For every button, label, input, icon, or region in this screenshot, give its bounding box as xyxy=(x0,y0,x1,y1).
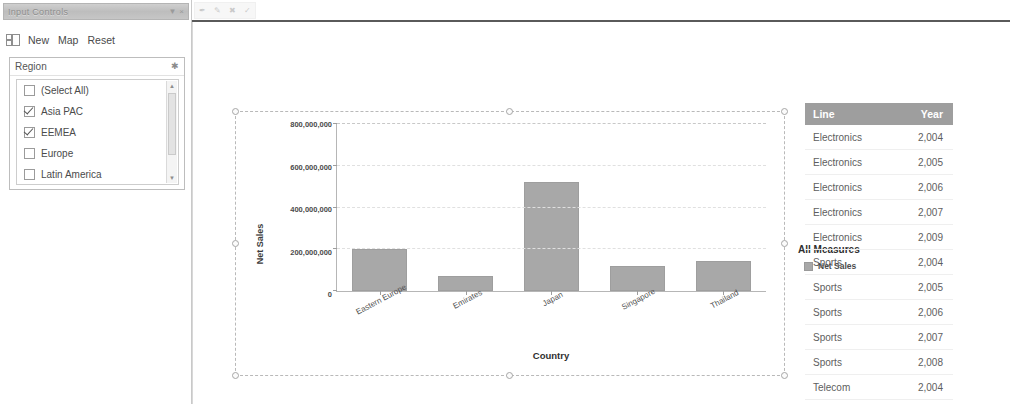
cell-line: Electronics xyxy=(805,200,879,225)
scroll-down-icon[interactable]: ▼ xyxy=(167,173,177,183)
cell-line: Sports xyxy=(805,325,879,350)
table-row[interactable]: Electronics2,004 xyxy=(805,125,953,150)
table-row[interactable]: Sports2,006 xyxy=(805,300,953,325)
panel-toolbar: New Map Reset xyxy=(6,30,188,50)
mini-toolbar[interactable]: ✒ ✎ ✖ ✓ xyxy=(194,2,256,19)
table-row[interactable]: Electronics2,006 xyxy=(805,175,953,200)
cell-year: 2,006 xyxy=(879,300,953,325)
column-header-year[interactable]: Year xyxy=(879,103,953,125)
cell-year: 2,007 xyxy=(879,325,953,350)
checkbox-checked-icon[interactable] xyxy=(24,106,35,117)
x-tick-label: Japan xyxy=(541,290,564,308)
cell-line: Sports xyxy=(805,300,879,325)
column-header-line[interactable]: Line xyxy=(805,103,879,125)
cell-year: 2,008 xyxy=(879,350,953,375)
input-controls-panel: Input Controls ▼ × New Map Reset Region … xyxy=(0,0,192,404)
checkbox-icon[interactable] xyxy=(24,169,35,180)
cell-year: 2,009 xyxy=(879,225,953,250)
checkbox-icon[interactable] xyxy=(24,85,35,96)
table-row[interactable]: Electronics2,005 xyxy=(805,150,953,175)
delete-icon[interactable]: ✖ xyxy=(229,7,236,15)
cell-year: 2,006 xyxy=(879,175,953,200)
region-item-label: (Select All) xyxy=(41,85,89,96)
edit-icon[interactable]: ✎ xyxy=(214,7,221,15)
cell-year: 2,004 xyxy=(879,125,953,150)
region-item-select-all[interactable]: (Select All) xyxy=(17,80,178,101)
cell-line: Electronics xyxy=(805,150,879,175)
y-tick-label: 0 xyxy=(254,290,332,299)
controls-icon xyxy=(6,34,19,46)
y-tick-mark xyxy=(333,207,337,208)
y-axis-ticks: 0200,000,000400,000,000600,000,000800,00… xyxy=(250,112,332,375)
cell-line: Sports xyxy=(805,350,879,375)
cell-year: 2,005 xyxy=(879,400,953,404)
cell-year: 2,004 xyxy=(879,375,953,400)
cell-line: Sports xyxy=(805,250,879,275)
region-item-label: Europe xyxy=(41,148,73,159)
table-row[interactable]: Telecom2,004 xyxy=(805,375,953,400)
region-list: (Select All) Asia PAC EEMEA Europe Latin… xyxy=(16,79,179,185)
minimize-icon[interactable]: ▼ xyxy=(168,7,176,16)
checkbox-icon[interactable] xyxy=(24,148,35,159)
y-tick-mark xyxy=(333,248,337,249)
cell-line: Telecom xyxy=(805,400,879,404)
region-item-asia-pac[interactable]: Asia PAC xyxy=(17,101,178,122)
top-strip: ✒ ✎ ✖ ✓ xyxy=(192,0,1010,22)
region-item-eemea[interactable]: EEMEA xyxy=(17,122,178,143)
apply-icon[interactable]: ✓ xyxy=(244,7,251,15)
region-item-label: EEMEA xyxy=(41,127,76,138)
gridline xyxy=(337,248,766,249)
y-tick-label: 400,000,000 xyxy=(254,205,332,214)
region-filter-box: Region ✱ (Select All) Asia PAC EEMEA Eur… xyxy=(9,57,185,190)
panel-title: Input Controls xyxy=(8,7,165,17)
table-row[interactable]: Sports2,007 xyxy=(805,325,953,350)
scrollbar-thumb[interactable] xyxy=(168,93,176,155)
region-list-scrollbar[interactable]: ▲ ▼ xyxy=(166,81,177,183)
table-header-row: Line Year xyxy=(805,103,953,125)
panel-titlebar[interactable]: Input Controls ▼ × xyxy=(3,3,189,20)
table-row[interactable]: Sports2,005 xyxy=(805,275,953,300)
new-button[interactable]: New xyxy=(28,34,49,46)
close-icon[interactable]: × xyxy=(179,7,184,16)
table-row[interactable]: Electronics2,009 xyxy=(805,225,953,250)
region-item-latin-america[interactable]: Latin America xyxy=(17,164,178,185)
cell-year: 2,005 xyxy=(879,150,953,175)
pen-icon[interactable]: ✒ xyxy=(199,7,206,15)
map-button[interactable]: Map xyxy=(58,34,78,46)
y-tick-mark xyxy=(333,123,337,124)
bar[interactable] xyxy=(696,261,751,291)
bar-slot: Eastern Europe xyxy=(337,124,423,291)
y-tick-mark xyxy=(333,165,337,166)
gridline xyxy=(337,165,766,166)
region-item-label: Asia PAC xyxy=(41,106,83,117)
cell-line: Sports xyxy=(805,275,879,300)
table-row[interactable]: Sports2,004 xyxy=(805,250,953,275)
collapse-icon[interactable]: ✱ xyxy=(171,62,179,71)
scroll-up-icon[interactable]: ▲ xyxy=(167,81,177,91)
reset-button[interactable]: Reset xyxy=(87,34,114,46)
chart-container[interactable]: Net Sales 0200,000,000400,000,000600,000… xyxy=(235,111,785,376)
data-table: Line Year Electronics2,004Electronics2,0… xyxy=(805,103,953,404)
bar-chart: Net Sales 0200,000,000400,000,000600,000… xyxy=(236,112,784,375)
cell-year: 2,007 xyxy=(879,200,953,225)
region-item-europe[interactable]: Europe xyxy=(17,143,178,164)
table-row[interactable]: Electronics2,007 xyxy=(805,200,953,225)
y-tick-label: 600,000,000 xyxy=(254,162,332,171)
region-item-label: Latin America xyxy=(41,169,102,180)
y-tick-label: 200,000,000 xyxy=(254,247,332,256)
table-row[interactable]: Sports2,008 xyxy=(805,350,953,375)
report-work-area: ✒ ✎ ✖ ✓ Net Sales 0200,000,000400,000,00… xyxy=(192,0,1010,404)
plot-area: Eastern EuropeEmiratesJapanSingaporeThai… xyxy=(336,124,766,292)
table-body: Electronics2,004Electronics2,005Electron… xyxy=(805,125,953,404)
gridline xyxy=(337,207,766,208)
bar[interactable] xyxy=(524,182,579,291)
x-axis-title: Country xyxy=(336,350,766,361)
bar[interactable] xyxy=(610,266,665,291)
y-tick-mark xyxy=(333,290,337,291)
bar[interactable] xyxy=(438,276,493,291)
gridline xyxy=(337,123,766,124)
y-tick-label: 800,000,000 xyxy=(254,120,332,129)
bar-slot: Thailand xyxy=(680,124,766,291)
table-row[interactable]: Telecom2,005 xyxy=(805,400,953,404)
checkbox-checked-icon[interactable] xyxy=(24,127,35,138)
